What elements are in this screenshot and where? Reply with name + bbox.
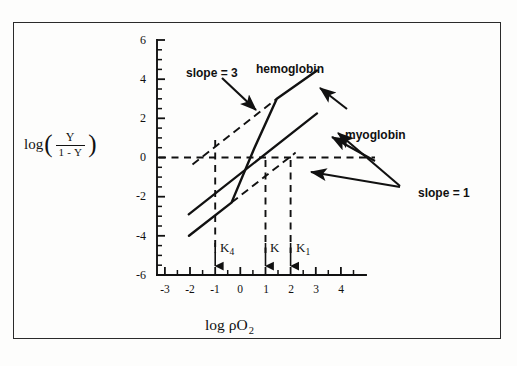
y-axis-label-log: log: [24, 136, 43, 153]
marker-label-K1: K1: [296, 240, 310, 256]
y-tick-label: -4: [124, 229, 146, 244]
x-axis-label-log: log: [205, 316, 225, 334]
y-tick-label: 0: [124, 150, 146, 165]
marker-base-K: K: [270, 240, 279, 255]
x-tick-label: -1: [204, 283, 226, 295]
annotation-myoglobin: myoglobin: [345, 128, 406, 142]
y-tick-label: 2: [124, 111, 146, 126]
x-tick-label: -2: [179, 283, 201, 295]
reference-lines: [159, 140, 375, 253]
marker-base-K4: K: [220, 240, 229, 255]
x-tick-label: 2: [280, 283, 302, 295]
y-tick-label: 6: [124, 33, 146, 48]
marker-label-K4: K4: [220, 240, 234, 256]
slope3-arrow: [222, 78, 256, 110]
y-tick-label: 4: [124, 72, 146, 87]
marker-base-K1: K: [296, 240, 305, 255]
x-tick-label: -3: [154, 283, 176, 295]
x-axis-ticks: [165, 267, 354, 275]
y-axis-label-fraction: Y 1 - Y: [56, 131, 86, 158]
x-tick-label: 3: [305, 283, 327, 295]
marker-label-K: K: [270, 240, 279, 256]
x-tick-label: 4: [330, 283, 352, 295]
y-axis-label-denominator: 1 - Y: [56, 147, 86, 159]
hill-plot-figure: 6 4 2 0 -2 -4 -6 -3 -2 -1 0 1 2 3 4 log …: [0, 0, 517, 366]
x-tick-label: 0: [229, 283, 251, 295]
x-axis-label-rho: ρO: [229, 316, 248, 334]
y-tick-label: -6: [124, 268, 146, 283]
asymptote-lines: [193, 99, 296, 203]
hemoglobin-arrow: [320, 88, 347, 109]
y-axis-label-numerator: Y: [62, 131, 79, 144]
plot-canvas: [0, 0, 517, 366]
y-axis-label-paren-close: ): [88, 131, 96, 156]
x-axis-label: log ρO 2: [205, 316, 253, 334]
marker-sub-K4: 4: [229, 247, 234, 257]
annotation-hemoglobin: hemoglobin: [256, 62, 324, 76]
marker-sub-K1: 1: [305, 247, 310, 257]
y-axis-label: log ( Y 1 - Y ): [24, 131, 97, 158]
x-axis-label-subscript: 2: [249, 325, 254, 336]
y-axis-label-paren-open: (: [44, 131, 52, 156]
annotation-slope-3: slope = 3: [186, 66, 238, 80]
y-tick-label: -2: [124, 189, 146, 204]
annotation-slope-1: slope = 1: [418, 186, 470, 200]
x-tick-label: 1: [255, 283, 277, 295]
myoglobin-curve: [189, 113, 317, 214]
